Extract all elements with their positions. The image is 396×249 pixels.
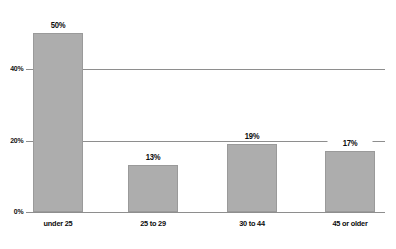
bar-under-25 [33,33,83,212]
value-label-30-to-44: 19% [230,131,275,141]
y-axis-label-0: 0% [13,208,23,216]
plot-area: 40% 20% 0% 50% 13% 19% 17% under 25 25 t… [0,0,396,249]
bar-45-or-older [325,151,375,212]
y-tick-0 [26,212,34,213]
value-label-45-or-older: 17% [328,138,373,148]
value-label-25-to-29: 13% [131,152,176,162]
bar-chart: 40% 20% 0% 50% 13% 19% 17% under 25 25 t… [0,0,396,249]
x-axis-label-under-25: under 25 [26,219,90,229]
bar-30-to-44 [227,144,277,212]
x-axis-label-25-to-29: 25 to 29 [121,219,185,229]
x-axis-label-45-or-older: 45 or older [318,219,382,229]
axis-baseline [33,212,385,213]
bar-25-to-29 [128,165,178,212]
gridline-40 [42,69,385,70]
y-axis-label-20: 20% [10,137,23,145]
x-axis-label-30-to-44: 30 to 44 [220,219,284,229]
value-label-under-25: 50% [36,20,81,30]
y-axis-label-40: 40% [10,65,23,73]
